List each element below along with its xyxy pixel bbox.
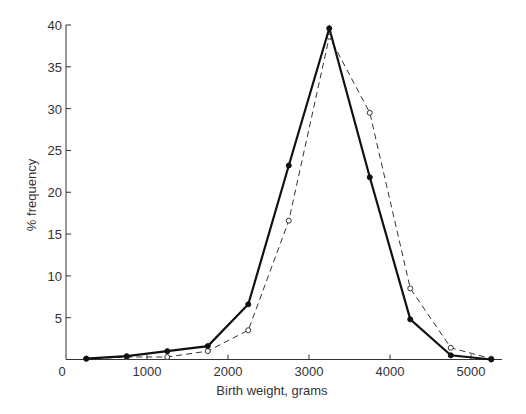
axes: 510152025303540010002000300040005000	[48, 18, 502, 379]
y-axis-label: % frequency	[24, 158, 39, 231]
open-marker	[408, 286, 413, 291]
solid-series-line	[86, 28, 491, 359]
x-tick-label: 1000	[133, 364, 162, 379]
open-marker	[286, 218, 291, 223]
filled-marker	[408, 317, 413, 322]
origin-label: 0	[58, 364, 65, 379]
x-axis-label: Birth weight, grams	[216, 383, 328, 398]
filled-marker	[367, 175, 372, 180]
line-chart: 510152025303540010002000300040005000 Bir…	[0, 0, 526, 414]
filled-marker	[124, 354, 129, 359]
filled-marker	[327, 26, 332, 31]
filled-marker	[205, 344, 210, 349]
x-tick-label: 3000	[295, 364, 324, 379]
filled-marker	[84, 356, 89, 361]
filled-marker	[489, 357, 494, 362]
open-marker	[448, 345, 453, 350]
y-tick-label: 10	[48, 269, 62, 284]
x-tick-label: 4000	[376, 364, 405, 379]
y-tick-label: 20	[48, 185, 62, 200]
filled-marker	[165, 349, 170, 354]
x-tick-label: 2000	[214, 364, 243, 379]
y-tick-label: 15	[48, 227, 62, 242]
y-tick-label: 25	[48, 143, 62, 158]
y-tick-label: 35	[48, 60, 62, 75]
open-marker	[165, 354, 170, 359]
filled-marker	[246, 302, 251, 307]
filled-marker	[286, 163, 291, 168]
open-marker	[205, 349, 210, 354]
dashed-series-line	[86, 37, 491, 359]
open-marker	[246, 328, 251, 333]
x-tick-label: 5000	[457, 364, 486, 379]
y-tick-label: 30	[48, 102, 62, 117]
y-tick-label: 40	[48, 18, 62, 33]
y-tick-label: 5	[55, 311, 62, 326]
filled-marker	[448, 353, 453, 358]
open-marker	[367, 110, 372, 115]
series-layer	[84, 26, 494, 362]
